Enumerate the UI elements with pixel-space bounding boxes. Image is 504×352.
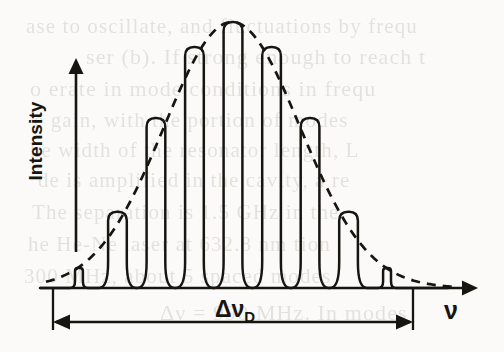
y-axis — [69, 58, 84, 252]
width-marker-right-arrowhead — [396, 315, 413, 330]
x-axis-label: ν — [444, 296, 458, 325]
width-marker-left-arrowhead — [53, 315, 70, 330]
figure-canvas: ase to oscillate, and fluctuations by fr… — [0, 0, 504, 352]
y-axis-label: Intensity — [25, 81, 47, 201]
doppler-width-label-subscript: D — [244, 308, 255, 325]
y-axis-arrowhead — [69, 58, 84, 74]
x-axis-arrowhead — [462, 281, 478, 296]
doppler-width-label: ΔνD — [215, 296, 255, 325]
doppler-width-label-main: Δν — [215, 296, 244, 322]
